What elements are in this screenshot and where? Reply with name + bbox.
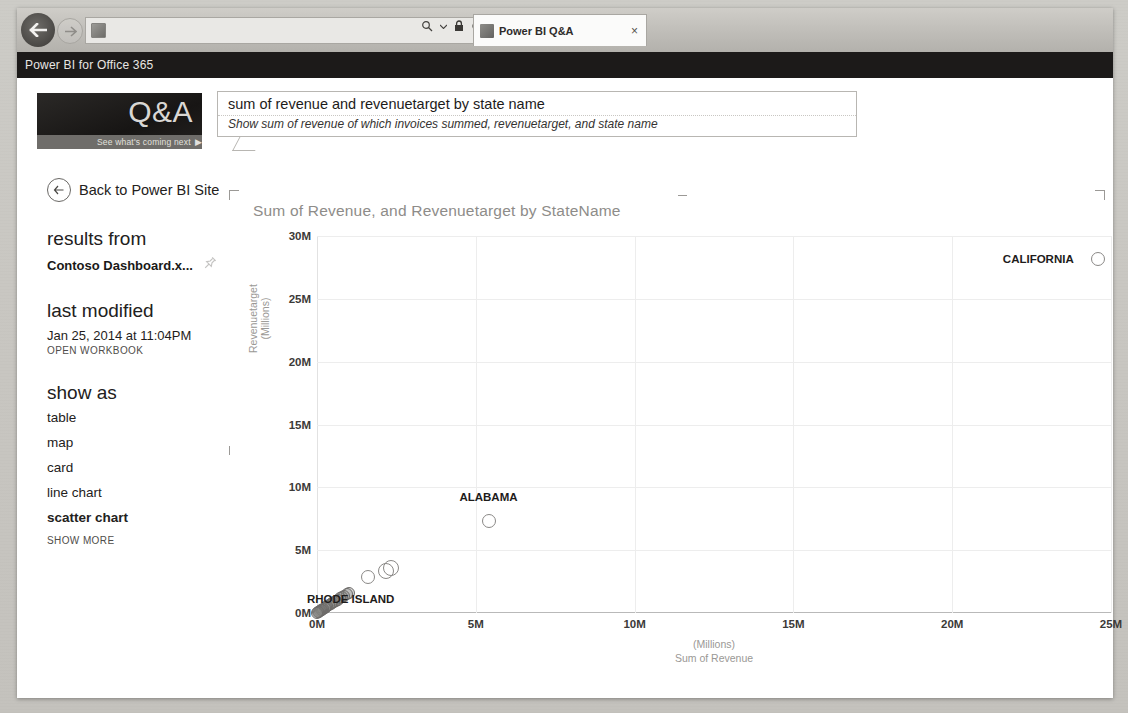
lock-icon xyxy=(454,20,464,32)
back-to-power-bi-site-link[interactable]: Back to Power BI Site xyxy=(47,178,231,202)
grid-line-horizontal xyxy=(317,550,1111,551)
browser-toolbar: Power BI Q&A × xyxy=(17,8,1113,53)
y-axis-tick-label: 10M xyxy=(289,481,311,493)
scatter-point[interactable] xyxy=(378,563,394,579)
scatter-point-label: CALIFORNIA xyxy=(1003,253,1074,265)
x-axis-tick-label: 10M xyxy=(623,618,645,630)
browser-tab[interactable]: Power BI Q&A × xyxy=(473,14,647,46)
selection-handle-left[interactable] xyxy=(229,446,230,455)
chart-title: Sum of Revenue, and Revenuetarget by Sta… xyxy=(253,202,621,220)
show-more-link[interactable]: SHOW MORE xyxy=(47,535,231,546)
show-as-option-table[interactable]: table xyxy=(47,410,231,425)
close-icon[interactable]: × xyxy=(629,24,640,38)
qa-query-input[interactable]: sum of revenue and revenuetarget by stat… xyxy=(228,96,545,112)
x-axis-title-label: Sum of Revenue xyxy=(317,652,1111,666)
y-axis-title-label: Revenuetarget xyxy=(247,284,259,353)
y-axis-tick-label: 30M xyxy=(289,230,311,242)
grid-line-vertical xyxy=(952,236,953,613)
grid-line-horizontal xyxy=(317,425,1111,426)
scatter-point[interactable] xyxy=(1091,252,1105,266)
app-title: Power BI for Office 365 xyxy=(17,58,153,72)
y-axis-title-unit: (Millions) xyxy=(259,298,271,340)
open-workbook-link[interactable]: OPEN WORKBOOK xyxy=(47,345,231,356)
site-favicon-icon xyxy=(91,23,106,38)
x-axis-title: (Millions) Sum of Revenue xyxy=(317,638,1111,665)
selection-handle-top-left[interactable] xyxy=(229,190,239,200)
last-modified-heading: last modified xyxy=(47,300,231,322)
page-content: Q&A See what's coming next ▶ sum of reve… xyxy=(17,78,1113,698)
selection-handle-top-right[interactable] xyxy=(1095,190,1105,200)
x-axis-tick-label: 20M xyxy=(941,618,963,630)
grid-line-vertical xyxy=(1111,236,1112,613)
qa-callout-tail xyxy=(232,136,263,151)
show-as-option-scatter-chart[interactable]: scatter chart xyxy=(47,510,231,525)
pin-icon[interactable] xyxy=(203,256,217,274)
app-header-bar: Power BI for Office 365 xyxy=(17,52,1113,78)
grid-line-horizontal xyxy=(317,299,1111,300)
dropdown-caret-icon[interactable] xyxy=(440,24,447,29)
grid-line-vertical xyxy=(476,236,477,613)
qa-query-box[interactable]: sum of revenue and revenuetarget by stat… xyxy=(217,91,857,137)
search-icon[interactable] xyxy=(421,20,433,32)
show-as-list: table map card line chart scatter chart xyxy=(31,410,231,525)
tab-favicon-icon xyxy=(480,24,494,38)
address-bar[interactable] xyxy=(85,17,478,44)
back-arrow-icon[interactable] xyxy=(21,13,55,47)
browser-window: Power BI Q&A × Power BI for Office 365 Q… xyxy=(17,8,1113,698)
y-axis-tick-label: 20M xyxy=(289,356,311,368)
workbook-item[interactable]: Contoso Dashboard.x... xyxy=(47,256,231,274)
sidebar: Back to Power BI Site results from Conto… xyxy=(31,178,231,546)
plot-area[interactable]: 0M5M10M15M20M25M30M0M5M10M15M20M25MCALIF… xyxy=(317,236,1111,613)
x-axis-tick-label: 0M xyxy=(309,618,325,630)
grid-line-vertical xyxy=(635,236,636,613)
y-axis-tick-label: 25M xyxy=(289,293,311,305)
grid-line-horizontal xyxy=(317,362,1111,363)
screenshot-root: Power BI Q&A × Power BI for Office 365 Q… xyxy=(0,0,1128,713)
show-as-option-map[interactable]: map xyxy=(47,435,231,450)
chart-container[interactable]: Sum of Revenue, and Revenuetarget by Sta… xyxy=(229,178,1107,698)
scatter-point-label: RHODE ISLAND xyxy=(307,593,395,605)
x-axis-title-unit: (Millions) xyxy=(317,638,1111,652)
y-axis-title: Revenuetarget (Millions) xyxy=(247,284,271,353)
qa-coming-next-banner[interactable]: See what's coming next ▶ xyxy=(37,135,202,149)
grid-line-vertical xyxy=(793,236,794,613)
qa-coming-next-label: See what's coming next xyxy=(97,137,191,147)
forward-arrow-icon[interactable] xyxy=(57,18,83,44)
play-arrow-icon: ▶ xyxy=(195,137,202,147)
qa-logo-text: Q&A xyxy=(128,95,193,129)
back-arrow-circle-icon xyxy=(47,178,71,202)
x-axis-tick-label: 25M xyxy=(1100,618,1122,630)
scatter-point-label: ALABAMA xyxy=(459,491,517,503)
qa-query-divider xyxy=(218,115,856,116)
back-link-label: Back to Power BI Site xyxy=(79,182,219,198)
last-modified-value: Jan 25, 2014 at 11:04PM xyxy=(47,328,231,343)
show-as-heading: show as xyxy=(47,382,231,404)
y-axis-tick-label: 5M xyxy=(295,544,311,556)
qa-logo[interactable]: Q&A See what's coming next ▶ xyxy=(37,93,202,149)
show-as-option-card[interactable]: card xyxy=(47,460,231,475)
scatter-point[interactable] xyxy=(482,514,496,528)
qa-interpretation-text: Show sum of revenue of which invoices su… xyxy=(228,117,658,131)
scatter-point[interactable] xyxy=(361,570,375,584)
workbook-name: Contoso Dashboard.x... xyxy=(47,258,193,273)
x-axis-tick-label: 5M xyxy=(468,618,484,630)
tab-title: Power BI Q&A xyxy=(499,25,629,37)
show-as-option-line-chart[interactable]: line chart xyxy=(47,485,231,500)
grid-line-horizontal xyxy=(317,487,1111,488)
selection-handle-top-center[interactable] xyxy=(678,195,687,196)
x-axis-line xyxy=(317,612,1111,613)
results-from-heading: results from xyxy=(47,228,231,250)
y-axis-tick-label: 15M xyxy=(289,419,311,431)
x-axis-tick-label: 15M xyxy=(782,618,804,630)
grid-line-horizontal xyxy=(317,236,1111,237)
scatter-point[interactable] xyxy=(311,607,323,619)
